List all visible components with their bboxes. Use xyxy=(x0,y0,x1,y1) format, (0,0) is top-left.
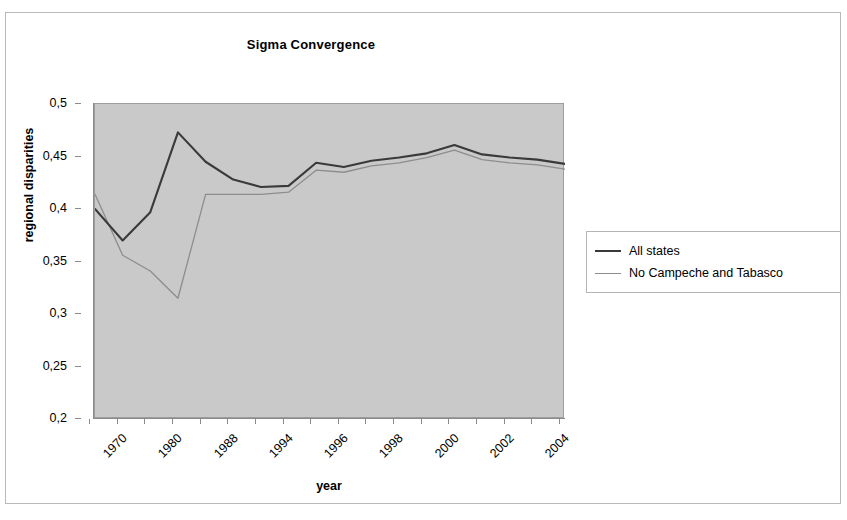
x-axis-tick xyxy=(365,419,366,424)
x-axis-tick-label: 1980 xyxy=(155,431,185,461)
x-axis-tick xyxy=(255,419,256,424)
x-axis-tick xyxy=(117,419,118,424)
series-line xyxy=(95,150,565,298)
x-axis-tick-label: 1996 xyxy=(321,431,351,461)
y-axis-tick xyxy=(75,156,81,157)
x-axis-tick xyxy=(448,419,449,424)
x-axis-tick xyxy=(200,419,201,424)
x-axis-tick xyxy=(393,419,394,424)
x-axis-tick-label: 1994 xyxy=(266,431,296,461)
y-axis-tick-label: 0,4 xyxy=(50,201,67,215)
x-axis-tick xyxy=(283,419,284,424)
x-axis-tick xyxy=(338,419,339,424)
legend-label-no-campeche-and-tabasco: No Campeche and Tabasco xyxy=(629,266,783,280)
y-axis-tick xyxy=(75,366,81,367)
x-axis-tick xyxy=(504,419,505,424)
x-axis-tick-label: 1970 xyxy=(100,431,130,461)
chart-legend: All states No Campeche and Tabasco xyxy=(586,231,841,293)
x-axis-tick-label: 1988 xyxy=(211,431,241,461)
y-axis-tick-label: 0,45 xyxy=(43,149,67,163)
y-axis-tick xyxy=(75,261,81,262)
plot-area xyxy=(94,103,564,418)
x-axis-tick xyxy=(421,419,422,424)
y-axis-tick xyxy=(75,418,81,419)
y-axis-tick-label: 0,5 xyxy=(50,96,67,110)
y-axis-title: regional disparities xyxy=(22,90,36,280)
x-axis-tick-label: 2000 xyxy=(432,431,462,461)
y-axis-tick xyxy=(75,313,81,314)
y-axis-tick xyxy=(75,103,81,104)
x-axis-tick xyxy=(310,419,311,424)
y-axis-tick-label: 0,2 xyxy=(50,411,67,425)
x-axis-tick xyxy=(89,419,90,424)
legend-swatch-all-states xyxy=(595,250,621,252)
y-axis-tick-label: 0,35 xyxy=(43,254,67,268)
x-axis-title: year xyxy=(94,479,564,493)
legend-label-all-states: All states xyxy=(629,244,680,258)
y-axis-tick-label: 0,3 xyxy=(50,306,67,320)
y-axis-tick-label: 0,25 xyxy=(43,359,67,373)
chart-title: Sigma Convergence xyxy=(6,37,616,52)
x-axis-tick-label: 2004 xyxy=(542,431,572,461)
series-line xyxy=(95,132,565,240)
x-axis-tick xyxy=(227,419,228,424)
legend-item-no-campeche-and-tabasco: No Campeche and Tabasco xyxy=(595,262,834,284)
x-axis-tick xyxy=(531,419,532,424)
legend-swatch-no-campeche-and-tabasco xyxy=(595,273,621,274)
x-axis-tick-label: 2002 xyxy=(487,431,517,461)
x-axis-tick xyxy=(559,419,560,424)
x-axis-tick xyxy=(476,419,477,424)
chart-frame: Sigma Convergence regional disparities y… xyxy=(5,12,841,504)
y-axis-tick xyxy=(75,208,81,209)
x-axis-tick xyxy=(144,419,145,424)
plot-lines xyxy=(95,104,565,419)
x-axis-tick xyxy=(172,419,173,424)
x-axis-tick-label: 1998 xyxy=(377,431,407,461)
legend-item-all-states: All states xyxy=(595,240,834,262)
